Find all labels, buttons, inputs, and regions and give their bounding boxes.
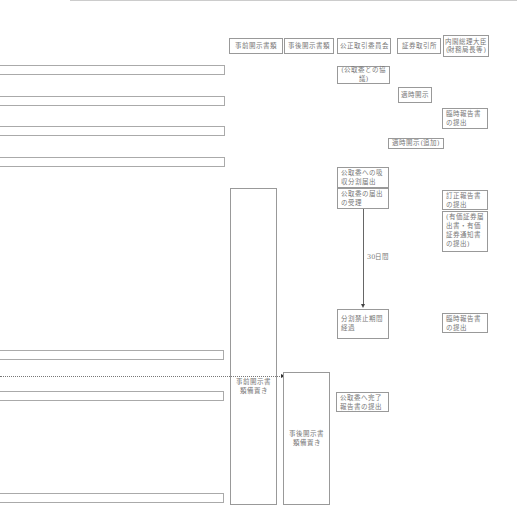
ftc-consultation-box: (公取委との協議) xyxy=(337,66,390,84)
extraordinary-report-box-1: 臨時報告書の提出 xyxy=(442,108,488,129)
ftc-pre-notification-text: 公取委への吸収分割届出 xyxy=(338,168,388,188)
step-bar-3 xyxy=(0,126,225,136)
pre-disclosure-keep-box: 事前開示書類備置き xyxy=(230,188,277,505)
timely-disclosure-box: 適時開示 xyxy=(398,87,432,103)
step-bar-6 xyxy=(0,391,224,401)
ftc-completion-report-text: 公取委へ完了報告書の提出 xyxy=(337,393,388,413)
timely-disclosure-additional-box: 適時開示(追加) xyxy=(388,138,444,149)
effective-date-dotted-line xyxy=(0,376,280,377)
amended-report-text: 訂正報告書の提出 xyxy=(443,191,487,211)
ftc-notification-accepted-text: 公取委の届出の受理 xyxy=(338,189,388,209)
extraordinary-report-text-1: 臨時報告書の提出 xyxy=(443,109,487,129)
step-bar-5 xyxy=(0,350,224,360)
post-disclosure-keep-box: 事後開示書類備置き xyxy=(283,372,330,505)
securities-note-box: (有価証券届出書・有価証券通知書の提出) xyxy=(442,211,488,252)
step-bar-2 xyxy=(0,96,225,106)
extraordinary-report-box-2: 臨時報告書の提出 xyxy=(442,313,488,333)
thirty-day-line xyxy=(363,209,364,306)
step-bar-4 xyxy=(0,157,225,167)
ftc-notification-accepted-box: 公取委の届出の受理 xyxy=(337,188,389,209)
post-disclosure-keep-label: 事後開示書類備置き xyxy=(288,430,326,448)
securities-note-text: (有価証券届出書・有価証券通知書の提出) xyxy=(443,212,487,250)
header-exchange: 証券取引所 xyxy=(397,38,441,54)
ftc-prohibition-end-box: 分割禁止期間経過 xyxy=(337,309,389,339)
ftc-pre-notification-box: 公取委への吸収分割届出 xyxy=(337,167,389,188)
extraordinary-report-text-2: 臨時報告書の提出 xyxy=(443,314,487,334)
thirty-day-label: 30日間 xyxy=(367,251,389,261)
header-post-disclosure: 事後開示書類 xyxy=(284,38,334,54)
pre-disclosure-keep-label: 事前開示書類備置き xyxy=(235,378,273,396)
amended-report-box: 訂正報告書の提出 xyxy=(442,190,488,210)
step-bar-1 xyxy=(0,65,225,75)
top-border-line xyxy=(70,0,517,1)
step-bar-7 xyxy=(0,493,224,503)
ftc-completion-report-box: 公取委へ完了報告書の提出 xyxy=(336,392,389,412)
header-pre-disclosure: 事前開示書類 xyxy=(229,38,283,54)
header-ftc: 公正取引委員会 xyxy=(337,38,391,54)
arrow-down-icon xyxy=(361,304,365,308)
header-pm: 内閣総理大臣 (財務局長等) xyxy=(443,35,489,57)
ftc-prohibition-end-text: 分割禁止期間経過 xyxy=(338,310,388,334)
